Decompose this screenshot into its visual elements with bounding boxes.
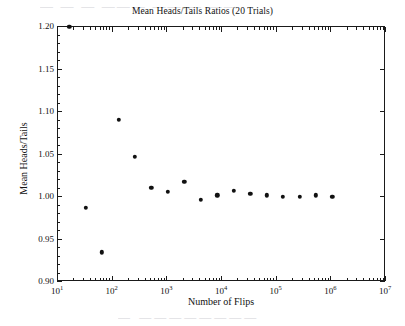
x-axis-minor-tick-top bbox=[213, 27, 214, 30]
x-axis-minor-tick-top bbox=[314, 27, 315, 30]
x-tick-exponent: 6 bbox=[333, 284, 336, 291]
x-axis-minor-tick-top bbox=[270, 27, 271, 30]
x-axis-minor-tick-top bbox=[192, 27, 193, 30]
y-axis-tick bbox=[57, 196, 62, 197]
plot-frame bbox=[57, 26, 385, 281]
x-axis-minor-tick bbox=[219, 278, 220, 281]
x-axis-minor-tick-top bbox=[259, 27, 260, 30]
x-axis-minor-tick-top bbox=[73, 27, 74, 30]
x-axis-minor-tick-top bbox=[145, 27, 146, 30]
y-axis-minor-tick bbox=[57, 52, 60, 53]
x-axis-minor-tick bbox=[377, 278, 378, 281]
x-axis-tick-label: 107 bbox=[379, 284, 391, 296]
x-axis-minor-tick-top bbox=[216, 27, 217, 30]
x-axis-tick-label: 104 bbox=[215, 284, 227, 296]
x-tick-base: 10 bbox=[324, 286, 333, 296]
y-axis-minor-tick bbox=[57, 264, 60, 265]
x-axis-tick-top bbox=[166, 27, 167, 32]
x-axis-minor-tick bbox=[237, 278, 238, 281]
data-point bbox=[166, 190, 170, 194]
x-tick-exponent: 4 bbox=[224, 284, 227, 291]
y-axis-tick-label: 1.10 bbox=[6, 106, 54, 116]
y-axis-minor-tick bbox=[57, 247, 60, 248]
data-point bbox=[149, 185, 153, 189]
x-axis-minor-tick-top bbox=[209, 27, 210, 30]
x-axis-minor-tick bbox=[369, 278, 370, 281]
x-axis-minor-tick-top bbox=[219, 27, 220, 30]
x-axis-minor-tick bbox=[247, 278, 248, 281]
x-axis-minor-tick-top bbox=[237, 27, 238, 30]
x-tick-exponent: 7 bbox=[388, 284, 391, 291]
x-axis-tick bbox=[166, 276, 167, 281]
y-axis-minor-tick bbox=[57, 162, 60, 163]
x-axis-minor-tick-top bbox=[322, 27, 323, 30]
x-axis-minor-tick-top bbox=[369, 27, 370, 30]
x-axis-tick bbox=[276, 276, 277, 281]
x-axis-minor-tick bbox=[95, 278, 96, 281]
x-axis-minor-tick bbox=[128, 278, 129, 281]
x-axis-minor-tick bbox=[199, 278, 200, 281]
y-axis-minor-tick bbox=[57, 120, 60, 121]
x-axis-minor-tick bbox=[73, 278, 74, 281]
y-axis-tick bbox=[57, 154, 62, 155]
x-axis-minor-tick-top bbox=[328, 27, 329, 30]
y-axis-tick bbox=[57, 69, 62, 70]
y-axis-tick-label: 0.90 bbox=[6, 276, 54, 286]
x-axis-minor-tick bbox=[328, 278, 329, 281]
x-axis-minor-tick bbox=[158, 278, 159, 281]
x-axis-minor-tick bbox=[145, 278, 146, 281]
y-axis-minor-tick bbox=[57, 179, 60, 180]
y-axis-minor-tick bbox=[57, 213, 60, 214]
y-axis-minor-tick bbox=[57, 256, 60, 257]
y-axis-minor-tick bbox=[57, 145, 60, 146]
x-tick-base: 10 bbox=[215, 286, 224, 296]
x-axis-tick-top bbox=[385, 27, 386, 32]
x-axis-minor-tick-top bbox=[292, 27, 293, 30]
x-axis-tick-top bbox=[276, 27, 277, 32]
x-axis-minor-tick-top bbox=[254, 27, 255, 30]
y-axis-minor-tick bbox=[57, 188, 60, 189]
x-axis-tick-label: 103 bbox=[160, 284, 172, 296]
x-axis-minor-tick bbox=[138, 278, 139, 281]
data-point bbox=[199, 197, 203, 201]
data-point bbox=[232, 189, 236, 193]
x-axis-minor-tick bbox=[213, 278, 214, 281]
x-axis-minor-tick bbox=[309, 278, 310, 281]
x-tick-base: 10 bbox=[160, 286, 169, 296]
y-axis-minor-tick bbox=[57, 94, 60, 95]
x-axis-minor-tick bbox=[100, 278, 101, 281]
y-axis-tick-right bbox=[380, 111, 385, 112]
x-axis-minor-tick-top bbox=[273, 27, 274, 30]
x-axis-minor-tick bbox=[347, 278, 348, 281]
y-axis-minor-tick bbox=[57, 60, 60, 61]
x-axis-tick bbox=[57, 276, 58, 281]
x-axis-minor-tick-top bbox=[325, 27, 326, 30]
y-axis-tick-label: 1.15 bbox=[6, 64, 54, 74]
x-axis-minor-tick bbox=[103, 278, 104, 281]
x-axis-tick-label: 102 bbox=[106, 284, 118, 296]
y-axis-minor-tick bbox=[57, 137, 60, 138]
x-axis-minor-tick-top bbox=[128, 27, 129, 30]
y-axis-minor-tick bbox=[57, 230, 60, 231]
x-axis-minor-tick-top bbox=[380, 27, 381, 30]
data-point bbox=[248, 191, 252, 195]
x-axis-minor-tick-top bbox=[363, 27, 364, 30]
y-axis-tick-label: 1.20 bbox=[6, 21, 54, 31]
chart-title: Mean Heads/Tails Ratios (20 Trials) bbox=[0, 6, 405, 16]
x-axis-minor-tick-top bbox=[154, 27, 155, 30]
data-point bbox=[264, 193, 268, 197]
x-axis-minor-tick bbox=[83, 278, 84, 281]
y-axis-tick-right bbox=[380, 196, 385, 197]
x-axis-minor-tick bbox=[363, 278, 364, 281]
x-axis-tick-top bbox=[57, 27, 58, 32]
x-axis-minor-tick bbox=[302, 278, 303, 281]
y-axis-tick-right bbox=[380, 69, 385, 70]
x-axis-minor-tick bbox=[106, 278, 107, 281]
x-axis-minor-tick-top bbox=[138, 27, 139, 30]
data-point bbox=[330, 195, 334, 199]
x-axis-minor-tick-top bbox=[100, 27, 101, 30]
x-axis-minor-tick bbox=[150, 278, 151, 281]
data-point bbox=[314, 193, 318, 197]
y-axis-tick-right bbox=[380, 239, 385, 240]
x-tick-base: 10 bbox=[51, 286, 60, 296]
